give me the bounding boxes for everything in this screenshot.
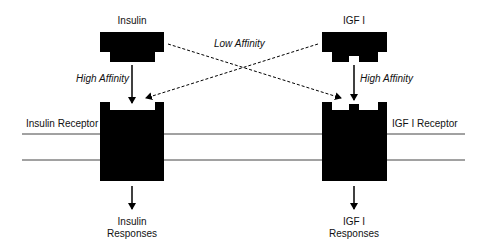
insulin-responses-label: Insulin Responses (107, 216, 157, 240)
igf-ligand-shape (322, 32, 387, 62)
insulin-to-igf-low-affinity-arrow (168, 44, 341, 98)
igf-ligand-label: IGF I (343, 15, 365, 27)
insulin-ligand-shape (100, 32, 164, 62)
insulin-high-affinity-label: High Affinity (76, 73, 129, 84)
insulin-igf-receptor-diagram: Insulin IGF I Low Affinity High Affinity… (0, 0, 485, 249)
low-affinity-label: Low Affinity (214, 38, 265, 49)
insulin-receptor-shape (100, 102, 164, 181)
insulin-ligand-label: Insulin (118, 15, 147, 27)
igf-high-affinity-label: High Affinity (360, 73, 413, 84)
cell-membrane (22, 134, 465, 160)
igf-receptor-label: IGF I Receptor (392, 118, 458, 129)
insulin-responses-line2: Responses (107, 228, 157, 240)
insulin-receptor-label: Insulin Receptor (26, 118, 98, 129)
insulin-responses-line1: Insulin (107, 216, 157, 228)
igf-responses-label: IGF I Responses (329, 216, 379, 240)
igf-responses-line1: IGF I (329, 216, 379, 228)
igf-receptor-shape (322, 102, 387, 181)
igf-to-insulin-low-affinity-arrow (146, 44, 318, 98)
igf-responses-line2: Responses (329, 228, 379, 240)
